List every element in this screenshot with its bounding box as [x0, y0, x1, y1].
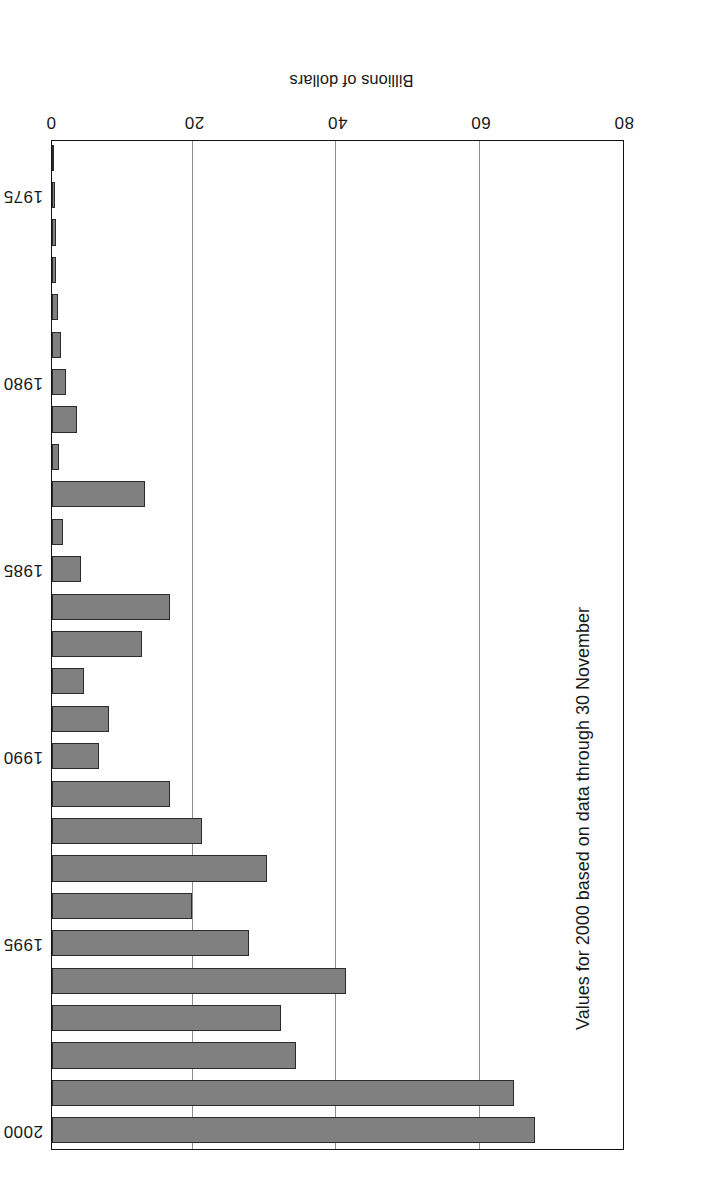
bar-row — [52, 145, 623, 171]
bar-row — [52, 1080, 623, 1106]
year-tick-1975: 1975 — [3, 186, 43, 206]
bar-1995 — [52, 930, 249, 956]
bar-row — [52, 818, 623, 844]
value-tick-80: 80 — [614, 112, 634, 132]
bar-1997 — [52, 1005, 281, 1031]
bar-1974 — [52, 145, 54, 171]
bar-series — [52, 141, 623, 1149]
bar-row — [52, 968, 623, 994]
bar-row — [52, 1042, 623, 1068]
year-tick-2000: 2000 — [3, 1121, 43, 1141]
chart-annotation: Values for 2000 based on data through 30… — [573, 607, 594, 1030]
bar-1985 — [52, 556, 81, 582]
bar-row — [52, 519, 623, 545]
year-tick-1995: 1995 — [3, 934, 43, 954]
value-tick-60: 60 — [471, 112, 491, 132]
year-tick-1990: 1990 — [3, 747, 43, 767]
bar-row — [52, 855, 623, 881]
bar-row — [52, 257, 623, 283]
bar-row — [52, 594, 623, 620]
bar-1978 — [52, 294, 58, 320]
bar-1987 — [52, 631, 142, 657]
bar-1976 — [52, 219, 56, 245]
bar-row — [52, 556, 623, 582]
plot-area — [51, 140, 624, 1150]
bar-1986 — [52, 594, 170, 620]
bar-row — [52, 1117, 623, 1143]
bar-row — [52, 481, 623, 507]
bar-row — [52, 631, 623, 657]
bar-1991 — [52, 781, 170, 807]
bar-1988 — [52, 668, 84, 694]
value-tick-40: 40 — [328, 112, 348, 132]
value-tick-20: 20 — [184, 112, 204, 132]
bar-row — [52, 930, 623, 956]
bar-1975 — [52, 182, 55, 208]
bar-1994 — [52, 893, 192, 919]
bar-1989 — [52, 706, 109, 732]
bar-row — [52, 743, 623, 769]
bar-1990 — [52, 743, 99, 769]
bar-1999 — [52, 1080, 514, 1106]
year-tick-1980: 1980 — [3, 373, 43, 393]
bar-row — [52, 706, 623, 732]
bar-1981 — [52, 406, 77, 432]
bar-row — [52, 406, 623, 432]
bar-row — [52, 294, 623, 320]
bar-row — [52, 444, 623, 470]
bar-row — [52, 1005, 623, 1031]
bar-row — [52, 332, 623, 358]
bar-2000 — [52, 1117, 535, 1143]
bar-1998 — [52, 1042, 296, 1068]
year-tick-1985: 1985 — [3, 560, 43, 580]
bar-row — [52, 219, 623, 245]
bar-1983 — [52, 481, 145, 507]
bar-1984 — [52, 519, 63, 545]
bar-1979 — [52, 332, 61, 358]
bar-row — [52, 668, 623, 694]
bar-1996 — [52, 968, 346, 994]
bar-1982 — [52, 444, 59, 470]
bar-row — [52, 893, 623, 919]
bar-row — [52, 369, 623, 395]
bar-1977 — [52, 257, 56, 283]
bar-row — [52, 781, 623, 807]
bar-row — [52, 182, 623, 208]
value-axis-title: Billions of dollars — [0, 71, 703, 90]
bar-1992 — [52, 818, 202, 844]
value-tick-0: 0 — [46, 112, 56, 132]
rotated-figure-canvas: 0 20 40 60 80 1975 1980 1985 1990 1995 2… — [0, 0, 703, 1180]
bar-1980 — [52, 369, 66, 395]
bar-1993 — [52, 855, 267, 881]
